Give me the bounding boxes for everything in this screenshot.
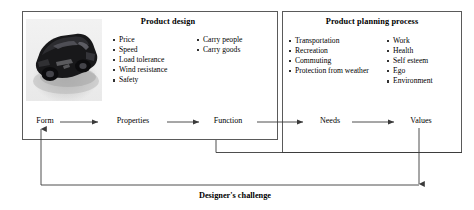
list-item: Speed (112, 45, 192, 55)
car-illustration (26, 19, 102, 101)
caption-designers-challenge: Designer's challenge (150, 191, 320, 200)
figure-canvas: Product design Product planning process … (0, 0, 474, 210)
flow-node-needs: Needs (310, 116, 350, 125)
list-product-design-column-1: Price Speed Load tolerance Wind resistan… (112, 35, 192, 85)
panel-title-product-design: Product design (108, 17, 228, 26)
list-item: Recreation (288, 46, 380, 56)
list-item: Carry goods (196, 45, 276, 55)
list-item: Price (112, 35, 192, 45)
list-item: Transportation (288, 36, 380, 46)
list-item: Health (386, 46, 461, 56)
list-item: Protection from weather (288, 66, 380, 76)
list-item: Commuting (288, 56, 380, 66)
list-item: Self esteem (386, 56, 461, 66)
list-product-planning-column-1: Transportation Recreation Commuting Prot… (288, 36, 380, 76)
list-item: Safety (112, 75, 192, 85)
list-item: Load tolerance (112, 55, 192, 65)
list-product-planning-column-2: Work Health Self esteem Ego Environment (386, 36, 461, 86)
flow-node-values: Values (400, 116, 442, 125)
list-product-design-column-2: Carry people Carry goods (196, 35, 276, 55)
list-item: Wind resistance (112, 65, 192, 75)
list-item: Carry people (196, 35, 276, 45)
list-item: Ego (386, 66, 461, 76)
list-item: Work (386, 36, 461, 46)
car-photo (26, 19, 102, 101)
panel-title-product-planning-process: Product planning process (297, 17, 447, 26)
flow-node-function: Function (204, 116, 252, 125)
flow-node-properties: Properties (105, 116, 161, 125)
flow-node-form: Form (25, 116, 65, 125)
list-item: Environment (386, 76, 461, 86)
